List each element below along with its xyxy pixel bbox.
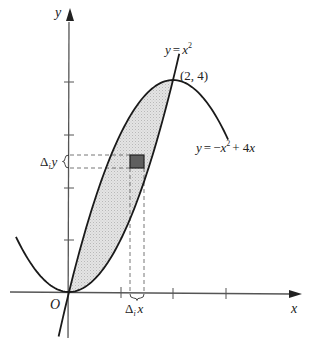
y-axis-arrow-icon <box>66 8 74 21</box>
label-y-equals-neg-x-squared-plus-4x: y=−x2+ 4x <box>194 139 255 155</box>
region-between-curves-diagram: y x O y=x2 (2, 4) y=−x2+ 4x Δiy Δix <box>0 0 309 346</box>
delta-y-label: Δiy <box>40 154 58 171</box>
x-axis-label: x <box>290 301 298 316</box>
delta-x-brace-icon <box>130 294 144 301</box>
label-y-equals-x-squared: y=x2 <box>163 41 192 57</box>
shaded-region <box>69 80 173 292</box>
area-element-square <box>130 155 144 168</box>
y-axis-label: y <box>53 5 62 20</box>
delta-x-label: Δix <box>125 301 144 318</box>
origin-label: O <box>50 297 60 312</box>
x-axis-arrow-icon <box>289 290 302 298</box>
intersection-point-label: (2, 4) <box>180 68 208 83</box>
